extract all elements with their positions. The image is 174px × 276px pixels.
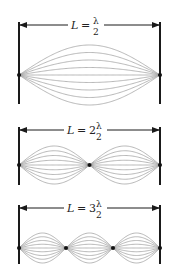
wave-envelopes-3 bbox=[19, 233, 160, 263]
wave-envelopes-1 bbox=[19, 45, 160, 105]
node-dot bbox=[64, 246, 68, 250]
label-variable: L bbox=[66, 124, 74, 137]
length-label-1: L = λ 2 bbox=[0, 0, 99, 37]
length-label-3: L = 3 λ 2 bbox=[0, 0, 102, 220]
label-variable: L bbox=[66, 202, 74, 215]
standing-waves-diagram: L = λ 2 L = 2 λ 2 L bbox=[0, 0, 174, 276]
node-dot bbox=[17, 73, 21, 77]
label-variable: L bbox=[70, 19, 78, 32]
wave-curve bbox=[19, 75, 160, 83]
label-equals: = bbox=[77, 202, 86, 215]
panel-harmonic-1: L = λ 2 bbox=[0, 0, 162, 105]
node-dot bbox=[158, 73, 162, 77]
label-denominator: 2 bbox=[93, 27, 99, 37]
label-denominator: 2 bbox=[96, 210, 102, 220]
wave-curve bbox=[19, 68, 160, 76]
label-coefficient: 2 bbox=[89, 124, 96, 137]
label-equals: = bbox=[77, 124, 86, 137]
node-dot bbox=[158, 246, 162, 250]
label-numerator-lambda: λ bbox=[96, 121, 102, 131]
label-equals: = bbox=[81, 19, 90, 32]
node-dot bbox=[88, 163, 92, 167]
label-coefficient: 3 bbox=[89, 202, 96, 215]
node-dot bbox=[158, 163, 162, 167]
label-numerator-lambda: λ bbox=[96, 199, 102, 209]
node-dot bbox=[111, 246, 115, 250]
node-dot bbox=[17, 163, 21, 167]
node-dot bbox=[17, 246, 21, 250]
label-denominator: 2 bbox=[96, 132, 102, 142]
label-numerator-lambda: λ bbox=[93, 16, 99, 26]
